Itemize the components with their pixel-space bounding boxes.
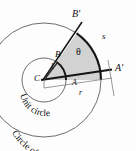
label-c: C (34, 74, 40, 83)
label-b: B (55, 50, 61, 59)
label-theta: θ (76, 47, 81, 57)
label-radius-r: r (79, 89, 82, 97)
label-arc-length-s: s (102, 32, 106, 41)
label-unit-one: 1 (50, 62, 55, 71)
label-b-prime: B' (72, 9, 80, 19)
figure-canvas (0, 0, 136, 151)
label-a-prime: A' (115, 63, 123, 73)
label-a: A (72, 79, 77, 87)
geometry-figure: Unit circle Circle of radius r B' A' B A… (0, 0, 136, 151)
